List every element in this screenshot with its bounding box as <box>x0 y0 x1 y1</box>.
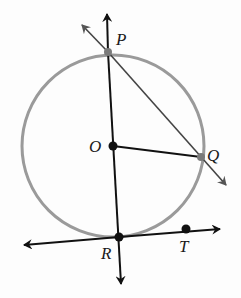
line-PR <box>107 14 108 52</box>
label-P: P <box>115 30 126 49</box>
label-O: O <box>89 137 101 156</box>
label-T: T <box>179 237 190 256</box>
label-R: R <box>100 244 112 263</box>
point-P <box>104 48 112 56</box>
segment-OQ <box>113 146 201 157</box>
point-O <box>109 142 118 151</box>
point-T <box>182 225 191 234</box>
line-PQ-upper <box>82 25 108 52</box>
point-R <box>115 233 124 242</box>
label-Q: Q <box>207 146 219 165</box>
point-Q <box>197 153 205 161</box>
geometry-diagram: P O Q R T <box>0 0 241 298</box>
